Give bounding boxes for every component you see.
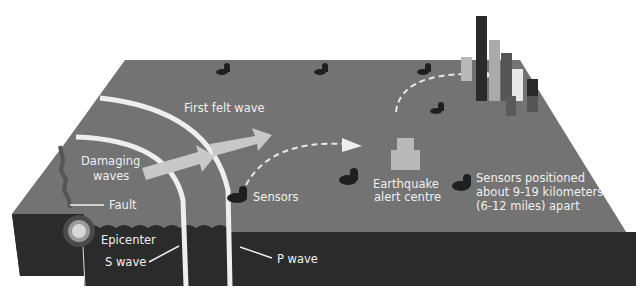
sensor-spacing-label-1: Sensors positioned bbox=[476, 171, 585, 185]
earthquake-diagram: First felt wave Damaging waves Fault Epi… bbox=[0, 0, 643, 296]
epicenter-core bbox=[72, 224, 86, 238]
damaging-waves-label-2: waves bbox=[93, 169, 129, 183]
first-felt-wave-label: First felt wave bbox=[184, 101, 265, 115]
damaging-waves-label-1: Damaging bbox=[81, 154, 140, 168]
alert-centre-label-2: alert centre bbox=[374, 190, 441, 204]
fault-label: Fault bbox=[109, 198, 137, 212]
s-wave-label: S wave bbox=[105, 255, 146, 269]
sensor-spacing-label-2: about 9-19 kilometers bbox=[476, 185, 603, 199]
sensor-spacing-label-3: (6-12 miles) apart bbox=[476, 199, 580, 213]
crust-lower bbox=[84, 232, 636, 286]
epicenter-label: Epicenter bbox=[101, 233, 156, 247]
alert-centre-label-1: Earthquake bbox=[373, 177, 439, 191]
sensors-label: Sensors bbox=[253, 190, 298, 204]
p-wave-label: P wave bbox=[277, 252, 318, 266]
